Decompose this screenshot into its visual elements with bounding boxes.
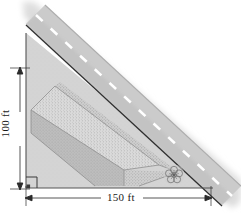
dimension-label-width: 150 ft <box>104 192 138 203</box>
bush-icon <box>164 165 185 186</box>
dimension-label-height: 100 ft <box>0 108 11 140</box>
diagram-svg <box>0 0 241 213</box>
figure-container: 100 ft 150 ft <box>0 0 241 213</box>
